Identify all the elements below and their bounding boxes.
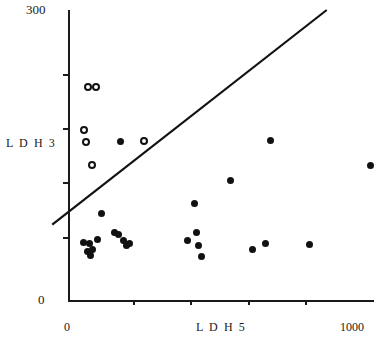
x-axis-tick [133,300,135,305]
x-axis-tick [248,300,250,305]
data-point-open [84,83,92,91]
data-point-filled [87,252,94,259]
data-point-filled [262,240,269,247]
data-point-filled [191,200,198,207]
y-axis-line [68,10,70,302]
data-point-filled [193,229,200,236]
data-point-filled [267,137,274,144]
x-axis-min-label: 0 [64,320,70,335]
x-axis-max-label: 1000 [340,320,364,335]
data-point-filled [126,240,133,247]
data-point-filled [198,253,205,260]
data-point-open [92,83,100,91]
y-axis-tick [63,74,69,76]
data-point-open [82,138,90,146]
data-point-filled [306,241,313,248]
y-axis-tick [63,182,69,184]
data-point-filled [227,177,234,184]
data-point-filled [249,246,256,253]
data-point-filled [94,236,101,243]
y-axis-tick [63,237,69,239]
x-axis-title: L D H 5 [196,320,246,335]
y-axis-title: L D H 3 [6,136,56,151]
y-axis-tick [63,128,69,130]
diagonal-reference-line [0,0,378,343]
data-point-filled [195,242,202,249]
scatter-plot-figure: 300 0 L D H 3 0 L D H 5 1000 [0,0,378,343]
data-point-open [140,137,148,145]
data-point-filled [117,138,124,145]
data-point-open [88,161,96,169]
data-point-filled [89,246,96,253]
y-axis-min-label: 0 [38,292,45,308]
data-point-filled [98,210,105,217]
x-axis-line [68,300,374,302]
y-axis-max-label: 300 [26,2,46,18]
data-point-open [80,126,88,134]
x-axis-tick [190,300,192,305]
data-point-filled [367,162,374,169]
data-point-filled [184,237,191,244]
x-axis-tick [305,300,307,305]
